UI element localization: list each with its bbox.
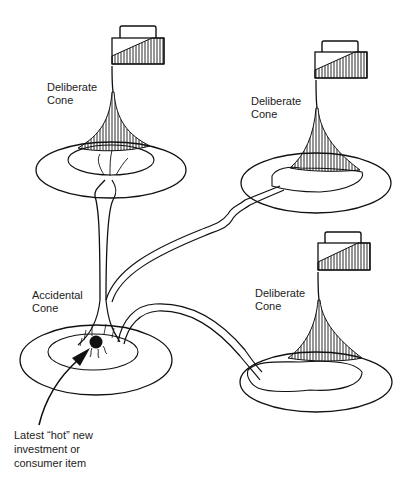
callout-line: consumer item — [14, 456, 93, 470]
callout-line: investment or — [14, 442, 93, 456]
label-deliberate-cone-top-right: Deliberate Cone — [251, 95, 301, 121]
label-line: Deliberate — [255, 287, 305, 300]
label-line: Accidental — [32, 289, 83, 302]
label-deliberate-cone-top-left: Deliberate Cone — [47, 81, 97, 107]
deliberate-cone-top-left — [36, 26, 186, 300]
callout-label: Latest “hot” new investment or consumer … — [14, 428, 93, 470]
label-accidental-cone: Accidental Cone — [32, 289, 83, 315]
deliberate-cone-top-right — [241, 41, 391, 213]
label-deliberate-cone-bottom-right: Deliberate Cone — [255, 287, 305, 313]
label-line: Deliberate — [251, 95, 301, 108]
label-line: Cone — [47, 94, 97, 107]
hot-item-dot — [90, 336, 103, 349]
callout-line: Latest “hot” new — [14, 428, 93, 442]
label-line: Cone — [251, 108, 301, 121]
pouring-can-icon — [318, 232, 370, 270]
pouring-can-icon — [315, 41, 367, 78]
label-line: Deliberate — [47, 81, 97, 94]
pouring-can-icon — [112, 26, 164, 64]
label-line: Cone — [32, 302, 83, 315]
deliberate-cone-bottom-right — [240, 232, 392, 412]
cone-diagram — [0, 0, 412, 490]
label-line: Cone — [255, 300, 305, 313]
connecting-streams — [106, 186, 284, 380]
